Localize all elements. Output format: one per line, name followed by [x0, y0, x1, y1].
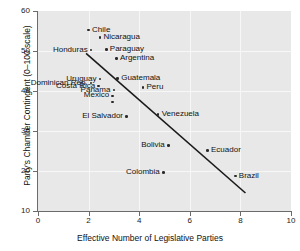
point-label: Argentina	[120, 54, 154, 62]
y-tick	[33, 11, 37, 12]
x-tick-label: 8	[230, 217, 250, 225]
y-tick	[33, 211, 37, 212]
data-point	[111, 95, 114, 98]
data-point	[116, 77, 119, 80]
data-point	[125, 115, 128, 118]
x-tick-label: 0	[28, 217, 48, 225]
point-label: Mexico	[84, 91, 109, 99]
point-label: Brazil	[239, 172, 259, 180]
point-label: Honduras	[53, 46, 88, 54]
regression-line	[0, 0, 300, 251]
x-tick-label: 4	[129, 217, 149, 225]
point-label: Guatemala	[121, 74, 160, 82]
x-tick-label: 10	[281, 217, 300, 225]
point-label: Ecuador	[211, 146, 241, 154]
data-point	[167, 144, 170, 147]
y-tick-label: 30	[8, 127, 30, 135]
y-tick-label: 50	[8, 47, 30, 55]
point-label: Bolivia	[141, 141, 165, 149]
data-point	[206, 149, 209, 152]
y-tick	[33, 131, 37, 132]
y-tick-label: 20	[8, 167, 30, 175]
x-tick-label: 6	[180, 217, 200, 225]
data-point	[99, 36, 102, 39]
point-label: Colombia	[126, 168, 160, 176]
point-label: Peru	[146, 83, 163, 91]
y-tick-label: 10	[8, 207, 30, 215]
y-tick-label: 60	[8, 7, 30, 15]
scatter-chart-figure: Party's Chamber Contingent (0–100 scale)…	[0, 0, 300, 251]
y-tick	[33, 51, 37, 52]
y-tick-label: 40	[8, 87, 30, 95]
point-label: Paraguay	[110, 45, 144, 53]
data-point	[162, 171, 165, 174]
y-tick	[33, 171, 37, 172]
y-tick	[33, 91, 37, 92]
x-axis-title: Effective Number of Legislative Parties	[0, 233, 300, 243]
point-label: El Salvador	[82, 112, 123, 120]
point-label: Nicaragua	[103, 33, 139, 41]
data-point	[115, 57, 118, 60]
point-label: Venezuela	[162, 110, 199, 118]
data-point	[105, 48, 108, 51]
x-tick-label: 2	[79, 217, 99, 225]
